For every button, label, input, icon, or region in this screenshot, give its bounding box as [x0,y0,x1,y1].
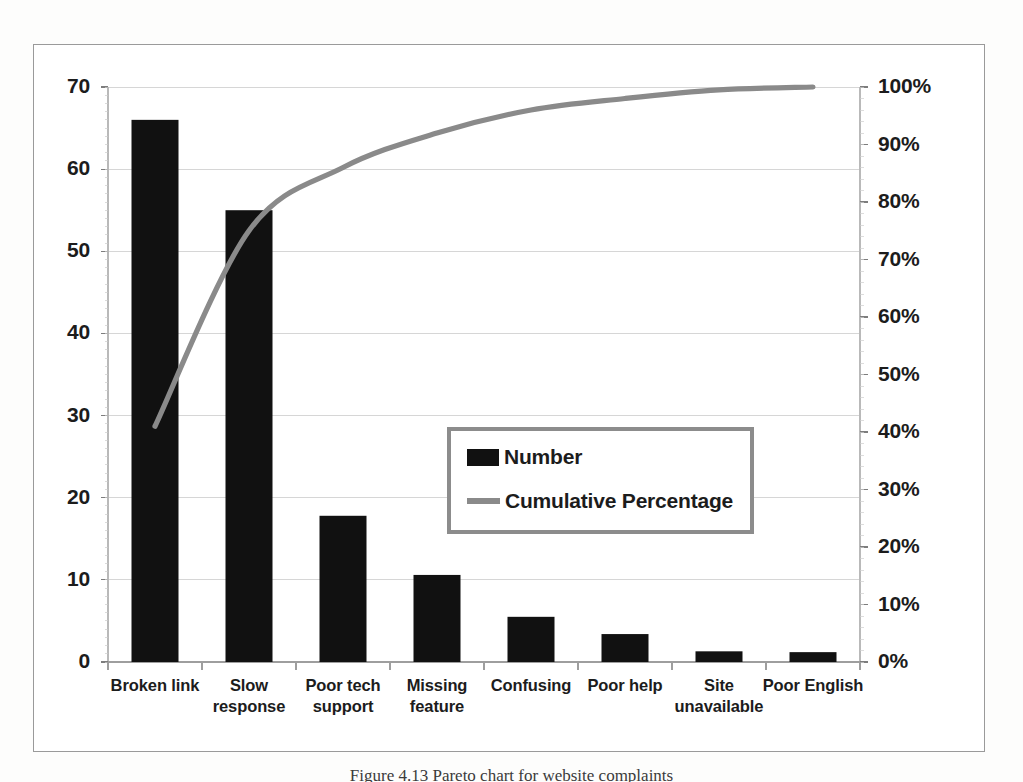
bar-series-number [132,120,837,662]
left-axis-tick-label: 70 [30,74,90,98]
right-axis-tick-label: 0% [878,649,958,673]
bar [508,617,555,662]
right-axis-tick-label: 30% [878,477,958,501]
bottom-axis [108,662,860,670]
left-axis [101,87,108,662]
bar [790,652,837,662]
right-axis-tick-label: 40% [878,419,958,443]
left-axis-tick-label: 0 [30,649,90,673]
legend-line-swatch-icon [467,498,500,504]
figure-caption: Figure 4.13 Pareto chart for website com… [0,766,1023,782]
left-axis-tick-label: 40 [30,320,90,344]
chart-legend: Number Cumulative Percentage [447,427,754,534]
left-axis-tick-label: 20 [30,485,90,509]
right-axis-tick-label: 80% [878,189,958,213]
category-label: Poor English [757,675,869,696]
right-axis-tick-label: 60% [878,304,958,328]
pareto-chart: 010203040506070 0%10%20%30%40%50%60%70%8… [0,0,1023,782]
left-axis-tick-label: 50 [30,238,90,262]
right-axis [860,87,868,662]
right-axis-tick-label: 10% [878,592,958,616]
bar [602,634,649,662]
legend-entry-cumulative-percentage: Cumulative Percentage [467,489,733,513]
bar [226,210,273,662]
bar [696,651,743,662]
bar [320,516,367,662]
bar [414,575,461,662]
left-axis-tick-label: 10 [30,567,90,591]
legend-label-number: Number [504,445,582,469]
legend-bar-swatch-icon [467,449,499,466]
right-axis-tick-label: 20% [878,534,958,558]
legend-entry-number: Number [467,445,582,469]
right-axis-tick-label: 70% [878,247,958,271]
right-axis-tick-label: 90% [878,132,958,156]
legend-label-cumulative-percentage: Cumulative Percentage [505,489,733,513]
right-axis-tick-label: 100% [878,74,958,98]
left-axis-tick-label: 30 [30,403,90,427]
right-axis-tick-label: 50% [878,362,958,386]
gridlines-group [108,87,860,662]
left-axis-tick-label: 60 [30,156,90,180]
chart-canvas [0,0,1023,782]
